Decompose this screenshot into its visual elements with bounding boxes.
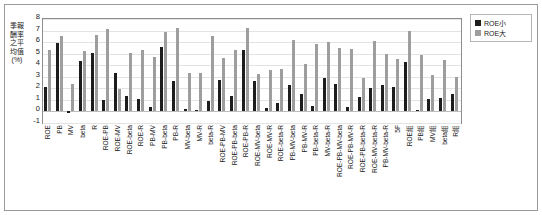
x-tick-label: ROE-MV-beta-R — [371, 125, 378, 173]
x-label-cell: MV組 — [427, 124, 439, 208]
bar-group — [171, 19, 183, 123]
bar-roe-large — [48, 50, 51, 112]
x-tick-label: MV-R — [196, 125, 203, 141]
bar-roe-large — [292, 40, 295, 112]
bar-roe-small — [79, 61, 82, 112]
x-label-cell: beta-R — [205, 124, 217, 208]
bar-roe-small — [149, 107, 152, 111]
x-label-cell: ROE-PB-beta — [229, 124, 241, 208]
bar-roe-small — [230, 96, 233, 111]
bar-roe-small — [172, 81, 175, 111]
bar-roe-small — [160, 47, 163, 111]
bar-roe-large — [373, 41, 376, 111]
bar-group — [89, 19, 101, 123]
x-label-cell: ROE-R — [135, 124, 147, 208]
bar-group — [345, 19, 357, 123]
x-tick-label: ROE-beta — [126, 125, 133, 154]
legend-swatch-roe-small — [475, 20, 481, 26]
x-label-cell: ROE-MV — [112, 124, 124, 208]
bar-group — [356, 19, 368, 123]
bar-group — [438, 19, 450, 123]
x-tick-label: ROE-PB-R — [243, 125, 250, 157]
x-tick-label: ROE組 — [406, 125, 413, 146]
x-label-cell: ROE組 — [404, 124, 416, 208]
bar-roe-small — [91, 53, 94, 112]
x-label-cell: MV — [65, 124, 77, 208]
bar-roe-small — [358, 97, 361, 111]
bar-roe-large — [118, 89, 121, 112]
bar-roe-small — [381, 85, 384, 111]
bar-roe-large — [199, 73, 202, 112]
x-tick-label: R組 — [453, 125, 460, 137]
x-tick-label: PB-MV-R — [301, 125, 308, 152]
bar-group — [426, 19, 438, 123]
x-tick-label: R — [91, 125, 98, 130]
bar-roe-large — [350, 49, 353, 111]
bar-roe-large — [141, 50, 144, 111]
bar-roe-large — [246, 28, 249, 111]
bar-roe-large — [257, 74, 260, 111]
bar-roe-large — [234, 50, 237, 111]
x-label-cell: ROE-PB-MV — [217, 124, 229, 208]
chart-screenshot: 季報酬率之平均值(%) 876543210-1 ROEPBMVbetaRROE-… — [0, 0, 542, 215]
bar-group — [217, 19, 229, 123]
y-tick-label: 5 — [36, 48, 40, 56]
x-label-cell: R — [89, 124, 101, 208]
x-label-cell: beta組 — [439, 124, 451, 208]
bar-roe-large — [396, 59, 399, 112]
x-tick-label: 5F — [395, 125, 402, 133]
y-tick-label: 1 — [36, 94, 40, 102]
bar-group — [147, 19, 159, 123]
x-label-cell: ROE-beta — [124, 124, 136, 208]
x-tick-label: ROE-PB-MV — [220, 125, 227, 162]
x-label-cell: PB-MV-beta-R — [380, 124, 392, 208]
bar-roe-large — [60, 36, 63, 111]
x-tick-label: ROE-PB-beta-R — [360, 125, 367, 172]
bar-group — [159, 19, 171, 123]
x-tick-label: ROE-R — [138, 125, 145, 146]
bar-roe-small — [276, 103, 279, 112]
x-tick-label: MV組 — [430, 125, 437, 142]
bar-group — [101, 19, 113, 123]
y-axis-ticks: 876543210-1 — [26, 16, 40, 134]
y-tick-label: 6 — [36, 36, 40, 44]
x-tick-label: PB組 — [418, 125, 425, 141]
bar-roe-large — [153, 57, 156, 112]
bar-group — [136, 19, 148, 123]
bar-group — [391, 19, 403, 123]
bar-group — [240, 19, 252, 123]
x-tick-label: PB-R — [173, 125, 180, 141]
y-tick-label: 4 — [36, 59, 40, 67]
bar-group — [380, 19, 392, 123]
bar-group — [415, 19, 427, 123]
x-label-cell: PB — [54, 124, 66, 208]
y-tick-label: 8 — [36, 13, 40, 21]
bar-roe-large — [385, 54, 388, 111]
x-tick-label: ROE-PB — [103, 125, 110, 150]
bar-groups — [43, 19, 461, 123]
chart-legend: ROE小 ROE大 — [470, 14, 532, 42]
bar-group — [182, 19, 194, 123]
bar-roe-small — [195, 110, 198, 112]
y-tick-label: 3 — [36, 71, 40, 79]
x-label-cell: PB-beta — [159, 124, 171, 208]
x-tick-label: ROE-MV-R — [266, 125, 273, 158]
y-tick-label: 7 — [36, 25, 40, 33]
bar-roe-small — [369, 88, 372, 112]
legend-label-roe-small: ROE小 — [484, 20, 506, 27]
x-tick-label: PB-MV-beta — [290, 125, 297, 161]
x-tick-label: beta-R — [208, 125, 215, 145]
x-tick-label: MV — [68, 125, 75, 135]
bar-group — [275, 19, 287, 123]
bar-group — [403, 19, 415, 123]
bar-roe-large — [164, 32, 167, 112]
x-axis-labels: ROEPBMVbetaRROE-PBROE-MVROE-betaROE-RPB-… — [42, 124, 462, 208]
x-tick-label: PB-beta-R — [313, 125, 320, 156]
bar-group — [43, 19, 55, 123]
bar-group — [229, 19, 241, 123]
y-tick-label: 2 — [36, 83, 40, 91]
bar-group — [264, 19, 276, 123]
bar-group — [206, 19, 218, 123]
bar-roe-large — [443, 60, 446, 111]
bar-roe-small — [44, 87, 47, 111]
